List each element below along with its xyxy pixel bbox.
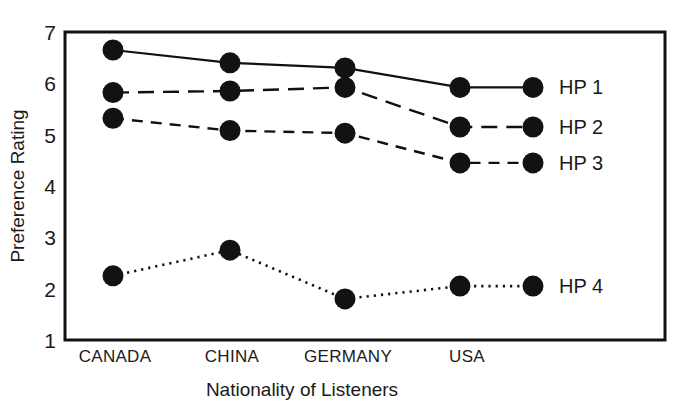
data-point [220, 81, 241, 102]
x-category-label-canada: CANADA [79, 347, 152, 366]
x-axis-title: Nationality of Listeners [206, 379, 398, 400]
y-tick-label-5: 5 [44, 124, 56, 147]
series-legend-marker [523, 152, 544, 173]
preference-rating-line-chart: Preference Rating 1234567 HP 1HP 2HP 3HP… [0, 0, 688, 417]
data-point [103, 108, 124, 129]
y-tick-label-4: 4 [44, 175, 56, 198]
y-tick-label-1: 1 [44, 329, 56, 352]
series-legend-marker [523, 116, 544, 137]
data-point [335, 77, 356, 98]
data-point [335, 123, 356, 144]
data-point [335, 288, 356, 309]
data-point [450, 77, 471, 98]
data-point [450, 152, 471, 173]
y-tick-label-7: 7 [44, 21, 56, 44]
series-label-hp-4: HP 4 [559, 275, 603, 297]
series-label-hp-3: HP 3 [559, 152, 603, 174]
series-label-hp-2: HP 2 [559, 116, 603, 138]
y-tick-label-2: 2 [44, 278, 56, 301]
data-point [450, 116, 471, 137]
series-legend-marker [523, 77, 544, 98]
data-point [220, 240, 241, 261]
chart-figure: Preference Rating 1234567 HP 1HP 2HP 3HP… [0, 0, 688, 417]
x-category-label-china: CHINA [205, 347, 260, 366]
data-point [103, 265, 124, 286]
data-point [450, 276, 471, 297]
series-legend-marker [523, 276, 544, 297]
data-point [335, 57, 356, 78]
y-tick-label-6: 6 [44, 72, 56, 95]
data-point [103, 39, 124, 60]
data-point [220, 52, 241, 73]
data-point [103, 82, 124, 103]
y-axis-title: Preference Rating [7, 109, 28, 262]
x-category-label-usa: USA [449, 347, 485, 366]
data-point [220, 120, 241, 141]
x-category-label-germany: GERMANY [304, 347, 392, 366]
series-label-hp-1: HP 1 [559, 76, 603, 98]
y-tick-label-3: 3 [44, 226, 56, 249]
